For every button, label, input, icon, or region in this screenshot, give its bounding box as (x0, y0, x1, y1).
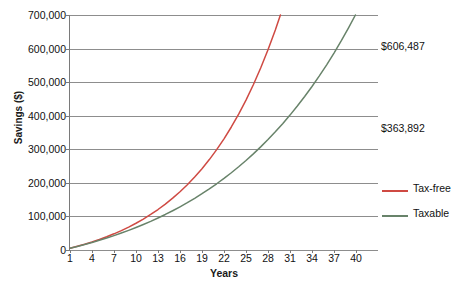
x-tick-label: 13 (152, 252, 164, 264)
y-tick-label: 300,000 (0, 143, 66, 155)
y-tick-label: 200,000 (0, 177, 66, 189)
x-tick-label: 22 (218, 252, 230, 264)
legend-swatch-taxable (382, 215, 408, 217)
x-tick-label: 34 (306, 252, 318, 264)
x-tick-label: 40 (350, 252, 362, 264)
x-tick-label: 16 (174, 252, 186, 264)
x-tick-label: 37 (328, 252, 340, 264)
legend-swatch-tax-free (382, 190, 408, 192)
savings-growth-chart: Savings ($) 0100,000200,000300,000400,00… (0, 0, 466, 288)
annotation-tax-free-value: $606,487 (381, 40, 425, 52)
x-tick-label: 10 (130, 252, 142, 264)
y-tick-label: 400,000 (0, 110, 66, 122)
plot-area (70, 15, 378, 250)
legend: Tax-free Taxable (382, 182, 466, 232)
legend-label-taxable: Taxable (413, 207, 449, 219)
legend-item-tax-free: Tax-free (382, 182, 466, 207)
y-tick-label: 500,000 (0, 76, 66, 88)
y-tick-label: 100,000 (0, 210, 66, 222)
legend-item-taxable: Taxable (382, 207, 466, 232)
y-tick-label: 700,000 (0, 9, 66, 21)
x-tick-label: 25 (240, 252, 252, 264)
x-tick-label: 4 (89, 252, 95, 264)
x-tick-label: 7 (111, 252, 117, 264)
y-tick-label: 600,000 (0, 43, 66, 55)
series-line-taxable (70, 15, 355, 248)
x-tick-label: 31 (284, 252, 296, 264)
x-axis-tick-labels: 1471013161922252831343740 (70, 252, 390, 268)
x-tick-label: 1 (67, 252, 73, 264)
series-line-tax-free (70, 15, 280, 248)
y-tick-label: 0 (0, 244, 66, 256)
legend-label-tax-free: Tax-free (413, 182, 451, 194)
series-lines (70, 15, 378, 250)
x-tick-label: 28 (262, 252, 274, 264)
annotation-taxable-value: $363,892 (381, 122, 425, 134)
x-tick-label: 19 (196, 252, 208, 264)
x-axis-title: Years (70, 267, 378, 279)
y-axis-tick-labels: 0100,000200,000300,000400,000500,000600,… (0, 0, 66, 288)
